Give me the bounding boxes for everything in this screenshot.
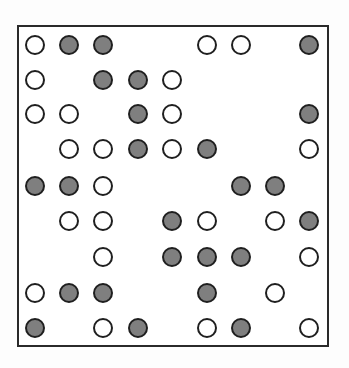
filled-circle — [59, 176, 79, 196]
filled-circle — [299, 211, 319, 231]
open-circle — [25, 104, 45, 124]
filled-circle — [25, 318, 45, 338]
open-circle — [197, 35, 217, 55]
open-circle — [162, 139, 182, 159]
open-circle — [59, 211, 79, 231]
filled-circle — [93, 70, 113, 90]
filled-circle — [299, 35, 319, 55]
open-circle — [25, 35, 45, 55]
open-circle — [162, 70, 182, 90]
diagram-canvas — [0, 0, 349, 368]
filled-circle — [25, 176, 45, 196]
open-circle — [25, 283, 45, 303]
open-circle — [162, 104, 182, 124]
filled-circle — [128, 70, 148, 90]
filled-circle — [162, 247, 182, 267]
filled-circle — [128, 318, 148, 338]
open-circle — [299, 247, 319, 267]
filled-circle — [128, 139, 148, 159]
open-circle — [265, 283, 285, 303]
open-circle — [299, 318, 319, 338]
filled-circle — [231, 176, 251, 196]
open-circle — [93, 211, 113, 231]
open-circle — [93, 318, 113, 338]
filled-circle — [128, 104, 148, 124]
filled-circle — [197, 283, 217, 303]
open-circle — [25, 70, 45, 90]
open-circle — [231, 35, 251, 55]
filled-circle — [231, 318, 251, 338]
filled-circle — [197, 139, 217, 159]
open-circle — [59, 139, 79, 159]
open-circle — [93, 139, 113, 159]
open-circle — [265, 211, 285, 231]
open-circle — [197, 318, 217, 338]
open-circle — [197, 211, 217, 231]
filled-circle — [162, 211, 182, 231]
filled-circle — [93, 35, 113, 55]
filled-circle — [93, 283, 113, 303]
open-circle — [93, 247, 113, 267]
filled-circle — [59, 283, 79, 303]
filled-circle — [59, 35, 79, 55]
open-circle — [93, 176, 113, 196]
filled-circle — [299, 104, 319, 124]
open-circle — [59, 104, 79, 124]
filled-circle — [197, 247, 217, 267]
filled-circle — [265, 176, 285, 196]
open-circle — [299, 139, 319, 159]
filled-circle — [231, 247, 251, 267]
